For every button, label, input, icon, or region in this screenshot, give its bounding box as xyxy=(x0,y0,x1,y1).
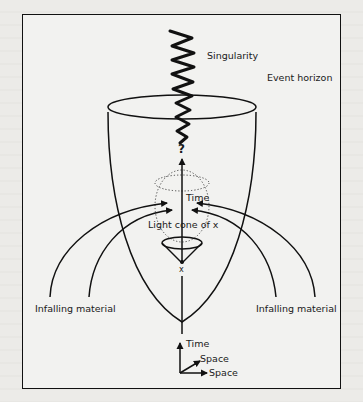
infalling-material-left-label: Infalling material xyxy=(35,304,116,314)
axis-time-label: Time xyxy=(186,339,209,349)
infalling-arrows-right xyxy=(192,203,315,297)
singularity-label: Singularity xyxy=(207,51,258,61)
axis-space-diagonal-label: Space xyxy=(200,354,229,364)
time-label-upper: Time xyxy=(186,193,209,203)
axis-space-horizontal-label: Space xyxy=(209,368,238,378)
singularity-zigzag xyxy=(170,31,194,143)
event-horizon-label: Event horizon xyxy=(267,73,332,83)
unknown-future-question-mark: ? xyxy=(178,143,185,155)
infalling-material-right-label: Infalling material xyxy=(256,304,337,314)
infalling-arrows-left xyxy=(50,203,172,297)
spacetime-diagram xyxy=(0,0,363,402)
point-x-label: x xyxy=(179,266,184,274)
light-cone-label: Light cone of x xyxy=(148,220,218,230)
